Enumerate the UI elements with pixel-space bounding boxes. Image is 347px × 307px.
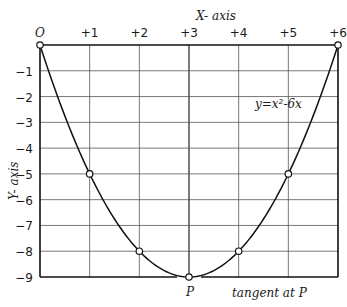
data-point-marker — [136, 248, 142, 254]
data-point-marker — [37, 42, 43, 48]
y-tick-label: −4 — [15, 142, 33, 156]
data-point-marker — [235, 248, 241, 254]
x-tick-label: O — [35, 26, 45, 40]
y-tick-label: −1 — [15, 65, 33, 79]
data-point-marker — [335, 42, 341, 48]
y-tick-label: −2 — [15, 91, 33, 105]
x-tick-label: +1 — [81, 26, 99, 40]
tangent-label: tangent at P — [232, 286, 308, 300]
data-point-marker — [285, 171, 291, 177]
x-axis-title: X- axis — [195, 9, 236, 23]
y-tick-label: −3 — [15, 116, 33, 130]
y-axis-title: Y- axis — [7, 162, 21, 200]
point-p-label: P — [185, 285, 195, 299]
y-tick-label: −9 — [15, 271, 33, 285]
x-tick-label: +4 — [230, 26, 248, 40]
parabola-chart: O+1+2+3+4+5+6−1−2−3−4−5−6−7−8−9 X- axis … — [0, 0, 347, 307]
x-tick-label: +2 — [130, 26, 148, 40]
equation-label: y=x²-6x — [254, 97, 302, 111]
data-point-marker — [86, 171, 92, 177]
grid — [40, 45, 338, 277]
x-tick-label: +5 — [279, 26, 297, 40]
x-tick-label: +3 — [180, 26, 198, 40]
data-point-marker — [186, 274, 192, 280]
y-tick-label: −8 — [15, 245, 33, 259]
y-tick-label: −7 — [15, 219, 33, 233]
x-tick-label: +6 — [329, 26, 347, 40]
